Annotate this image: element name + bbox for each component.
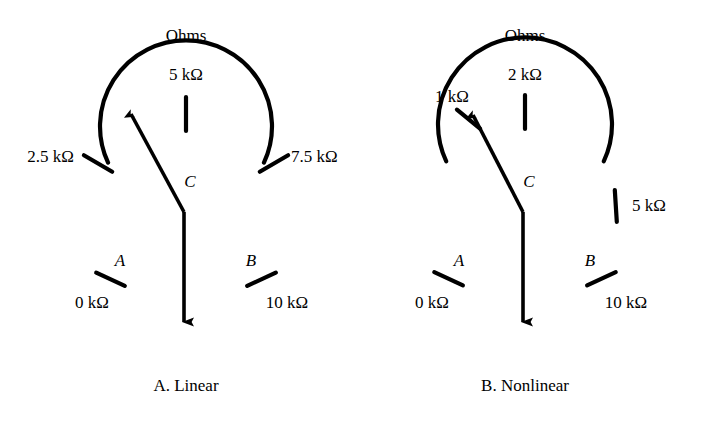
panel-a-tick-label-7-5k: 7.5 kΩ	[291, 148, 338, 165]
panel-b-terminal-label-b: B	[585, 252, 595, 269]
panel-b-tick-5	[615, 190, 617, 222]
panel-a-caption: A. Linear	[153, 377, 218, 394]
panel-b-tick-label-1k: 1 kΩ	[435, 88, 469, 105]
panel-b-tick-label-2k: 2 kΩ	[508, 66, 542, 83]
panel-b-pivot-label-c: C	[523, 173, 534, 190]
panel-b-tick-0	[434, 272, 463, 285]
panel-b-units-heading: Ohms	[505, 27, 546, 44]
panel-b-wiper-arm	[473, 115, 523, 212]
panel-a-tick-label-0k: 0 kΩ	[75, 294, 109, 311]
panel-a-units-heading: Ohms	[166, 27, 207, 44]
panel-a-wiper-arm	[131, 114, 184, 212]
panel-b-terminal-label-a: A	[454, 252, 464, 269]
panel-a-terminal-label-a: A	[115, 252, 125, 269]
panel-b-tick-10	[587, 272, 616, 285]
rheostat-dial-figure: Ohms 5 kΩ 2.5 kΩ 7.5 kΩ 0 kΩ 10 kΩ A B C…	[0, 0, 716, 421]
panel-a-terminal-label-b: B	[246, 252, 256, 269]
panel-a-tick-0	[96, 273, 125, 286]
panel-a-tick-label-5k: 5 kΩ	[169, 66, 203, 83]
panel-b-tick-label-0k: 0 kΩ	[415, 294, 449, 311]
panel-b-tick-label-10k: 10 kΩ	[605, 294, 647, 311]
panel-b-tick-label-5k: 5 kΩ	[632, 197, 666, 214]
dial-drawing-canvas	[0, 0, 716, 421]
panel-b-caption: B. Nonlinear	[481, 377, 569, 394]
panel-a-pivot-label-c: C	[184, 173, 195, 190]
panel-a-tick-10	[247, 273, 276, 286]
panel-a-tick-label-2-5k: 2.5 kΩ	[27, 148, 74, 165]
panel-a-tick-label-10k: 10 kΩ	[266, 294, 308, 311]
